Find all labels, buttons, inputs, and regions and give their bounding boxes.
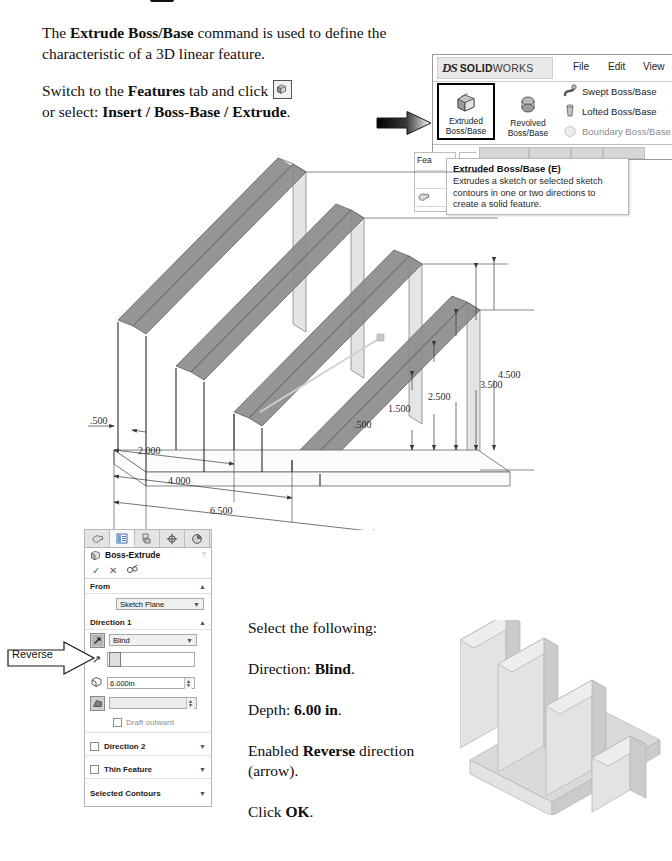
- dimxpert-crosshair-icon: [166, 533, 178, 545]
- dim-6500: 6.500: [210, 505, 233, 516]
- swept-boss-base-button[interactable]: Swept Boss/Base: [563, 82, 656, 101]
- direction2-section-header[interactable]: Direction 2 ▼: [85, 738, 211, 756]
- reverse-callout-label: Reverse: [12, 648, 53, 660]
- feature-manager-tree-tab[interactable]: [85, 530, 110, 547]
- from-collapse-chevron-up-icon[interactable]: ▲: [199, 583, 206, 590]
- intro-paragraph: The Extrude Boss/Base command is used to…: [42, 22, 440, 64]
- from-label: From: [90, 582, 110, 591]
- extrude-cube-icon: [276, 83, 288, 95]
- dimxpert-manager-tab[interactable]: [160, 530, 185, 547]
- dim-500-horiz: .500: [90, 415, 108, 426]
- menu-view[interactable]: View: [643, 61, 665, 72]
- end-condition-value: Blind: [113, 636, 130, 645]
- direction2-label: Direction 2: [104, 742, 145, 751]
- display-manager-tab[interactable]: [185, 530, 210, 547]
- end-condition-chevron-down-icon[interactable]: ▼: [186, 637, 193, 644]
- depth-input[interactable]: 6.000in ▲▼: [107, 677, 195, 689]
- depth-end-text: .: [338, 701, 342, 718]
- boundary-boss-base-button[interactable]: Boundary Boss/Base: [563, 122, 671, 141]
- switch-lead: Switch to the: [42, 82, 128, 99]
- lofted-boss-base-button[interactable]: Lofted Boss/Base: [563, 102, 656, 121]
- direction1-collapse-chevron-up-icon[interactable]: ▲: [199, 619, 206, 626]
- depth-stepper[interactable]: ▲▼: [184, 678, 192, 689]
- menu-file[interactable]: File: [573, 61, 589, 72]
- depth-icon: [90, 676, 103, 690]
- revolved-boss-base-label-2: Boss/Base: [508, 129, 549, 139]
- reverse-callout: Reverse: [6, 640, 98, 676]
- fin-3: [176, 204, 364, 380]
- revolved-boss-base-button[interactable]: Revolved Boss/Base: [499, 83, 557, 140]
- display-manager-sphere-icon: [191, 533, 203, 545]
- property-manager-title: Boss-Extrude: [105, 550, 160, 560]
- revolved-boss-base-icon: [517, 95, 539, 118]
- thin-feature-chevron-down-icon[interactable]: ▼: [199, 766, 206, 773]
- property-manager-tabstrip[interactable]: [85, 530, 211, 548]
- isometric-drawing: .w-face{fill:#8c8c8c;fill-opacity:.92;st…: [28, 150, 548, 530]
- solidworks-ribbon[interactable]: DS SOLIDWORKS File Edit View Extruded Bo…: [432, 54, 672, 160]
- draft-angle-row[interactable]: ▲▼: [85, 695, 211, 711]
- property-manager-panel[interactable]: Boss-Extrude ? ✓ ✕ From ▲ Sketch Plane ▼…: [84, 529, 212, 807]
- from-select[interactable]: Sketch Plane ▼: [116, 598, 204, 610]
- thin-feature-section-header[interactable]: Thin Feature ▼: [85, 761, 211, 779]
- insert-menu-path: Insert / Boss-Base / Extrude: [102, 103, 286, 120]
- depth-row[interactable]: 6.000in ▲▼: [85, 675, 211, 691]
- swept-boss-base-label: Swept Boss/Base: [582, 86, 656, 97]
- thin-feature-checkbox[interactable]: [90, 765, 99, 774]
- switch-rest: or select:: [42, 103, 102, 120]
- dim-4000: 4.000: [168, 475, 191, 486]
- help-icon[interactable]: ?: [202, 550, 206, 559]
- extruded-boss-base-label-2: Boss/Base: [446, 127, 487, 137]
- end-condition-select[interactable]: Blind ▼: [109, 634, 197, 646]
- detailed-preview-icon: [126, 564, 139, 575]
- draft-outward-checkbox[interactable]: [113, 718, 122, 727]
- features-tab-bold: Features: [128, 82, 185, 99]
- instruction-depth: Depth: 6.00 in.: [248, 700, 418, 720]
- property-manager-action-bar[interactable]: ✓ ✕: [85, 563, 211, 579]
- ribbon-body: Extruded Boss/Base Revolved Boss/Base: [433, 81, 672, 144]
- brand-solid: SOLID: [460, 62, 493, 74]
- configuration-icon: [141, 533, 153, 545]
- selected-contours-section-header[interactable]: Selected Contours ▼: [85, 784, 211, 802]
- ok-button[interactable]: ✓: [92, 565, 100, 576]
- switch-paragraph: Switch to the Features tab and click or …: [42, 80, 372, 122]
- selected-contours-chevron-down-icon[interactable]: ▼: [199, 790, 206, 797]
- fin-4: [118, 158, 306, 334]
- direction1-end-condition-row[interactable]: Blind ▼: [85, 632, 211, 648]
- lofted-boss-base-icon: [563, 104, 577, 120]
- extruded-boss-base-icon: [455, 93, 477, 116]
- boss-extrude-icon: [90, 550, 101, 561]
- detailed-preview-button[interactable]: [126, 564, 139, 577]
- direction-vector-row[interactable]: ↗: [85, 650, 211, 668]
- draft-outward-label: Draft outward: [126, 718, 174, 727]
- direction-value-text: Blind: [315, 660, 351, 677]
- configuration-manager-tab[interactable]: [135, 530, 160, 547]
- direction1-section-header[interactable]: Direction 1 ▲: [85, 616, 211, 630]
- lofted-boss-base-label: Lofted Boss/Base: [582, 106, 656, 117]
- instructions-block: Select the following: Direction: Blind. …: [248, 618, 418, 843]
- direction2-chevron-down-icon[interactable]: ▼: [199, 743, 206, 750]
- switch-mid: tab and click: [185, 82, 272, 99]
- intro-lead: The: [42, 24, 70, 41]
- from-row[interactable]: Sketch Plane ▼: [85, 596, 211, 612]
- direction-end-text: .: [351, 660, 355, 677]
- from-chevron-down-icon[interactable]: ▼: [193, 601, 200, 608]
- draft-angle-input[interactable]: ▲▼: [109, 697, 197, 709]
- property-manager-tab[interactable]: [110, 530, 135, 547]
- draft-toggle-button[interactable]: [90, 696, 105, 711]
- direction-vector-selection-swatch: [109, 652, 121, 667]
- direction1-label: Direction 1: [90, 618, 131, 627]
- menu-edit[interactable]: Edit: [608, 61, 625, 72]
- feature-tree-icon: [91, 533, 104, 545]
- draft-angle-stepper[interactable]: ▲▼: [186, 698, 194, 709]
- dim-2500: 2.500: [428, 391, 451, 402]
- direction-vector-field[interactable]: [107, 652, 195, 667]
- extruded-boss-base-button[interactable]: Extruded Boss/Base: [437, 83, 495, 140]
- boundary-boss-base-label: Boundary Boss/Base: [582, 126, 671, 137]
- draft-outward-row[interactable]: Draft outward: [85, 715, 211, 729]
- from-section-header[interactable]: From ▲: [85, 580, 211, 594]
- depth-dimension-icon: [90, 676, 103, 688]
- selected-contours-label: Selected Contours: [90, 789, 161, 798]
- direction2-checkbox[interactable]: [90, 742, 99, 751]
- boundary-boss-base-icon: [563, 124, 577, 140]
- cancel-button[interactable]: ✕: [109, 565, 117, 576]
